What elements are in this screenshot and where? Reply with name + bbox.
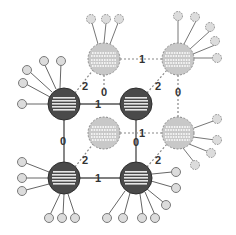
leaf-node	[138, 214, 147, 223]
edge-label: 1	[95, 98, 101, 110]
leaf-node	[58, 214, 67, 223]
leaf-node	[207, 149, 216, 158]
leaf-node	[115, 15, 124, 24]
leaf-node	[19, 79, 28, 88]
edge-label: 0	[133, 136, 139, 148]
leaf-node	[71, 214, 80, 223]
node-light-t2	[162, 43, 194, 75]
leaf-node	[103, 214, 112, 223]
edge-label: 2	[155, 80, 161, 92]
edge-label: 0	[101, 86, 107, 98]
edge-label: 1	[139, 127, 145, 139]
leaf-node	[191, 13, 200, 22]
leaf-node	[174, 12, 183, 21]
leaf-node	[18, 158, 27, 167]
leaf-node	[40, 57, 49, 66]
leaf-node	[23, 66, 32, 75]
leaf-node	[191, 161, 200, 170]
node-dark-bl	[48, 162, 80, 194]
leaf-nodes	[18, 12, 222, 223]
leaf-node	[162, 201, 171, 210]
leaf-node	[18, 100, 27, 109]
edge-label: 0	[60, 135, 66, 147]
node-dark-br	[120, 162, 152, 194]
edge-label: 1	[95, 172, 101, 184]
network-diagram: 2 1 0 1 2 0 0 2 1 0 2 1	[0, 0, 236, 235]
node-light-m2	[162, 117, 194, 149]
edge-label: 2	[82, 80, 88, 92]
leaf-node	[213, 115, 222, 124]
edge-label: 2	[155, 154, 161, 166]
edge-labels: 2 1 0 1 2 0 0 2 1 0 2 1	[60, 53, 181, 184]
leaf-node	[213, 136, 222, 145]
leaf-node	[172, 184, 181, 193]
node-dark-tl	[48, 88, 80, 120]
leaf-node	[57, 57, 66, 66]
edge-label: 1	[139, 53, 145, 65]
leaf-node	[119, 214, 128, 223]
leaf-node	[172, 168, 181, 177]
node-dark-c	[120, 88, 152, 120]
leaf-node	[45, 214, 54, 223]
node-light-t1	[88, 43, 120, 75]
leaf-node	[18, 174, 27, 183]
node-light-m1	[88, 117, 120, 149]
leaf-node	[206, 23, 215, 32]
leaves-light-t1	[92, 23, 118, 44]
leaf-node	[87, 15, 96, 24]
leaf-node	[102, 15, 111, 24]
leaf-node	[151, 214, 160, 223]
leaf-node	[18, 187, 27, 196]
edge-label: 0	[175, 86, 181, 98]
leaf-node	[213, 54, 222, 63]
edge-label: 2	[82, 154, 88, 166]
leaf-node	[211, 37, 220, 46]
